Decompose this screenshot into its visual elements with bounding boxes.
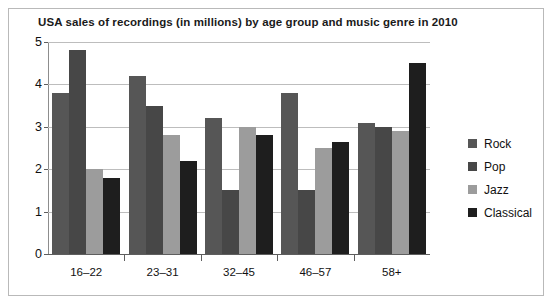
bar-group — [358, 42, 426, 254]
bar — [129, 76, 146, 254]
bar — [358, 123, 375, 254]
x-tick-label: 16–22 — [70, 266, 102, 278]
legend-item: Jazz — [468, 178, 532, 201]
bar — [315, 148, 332, 254]
legend-label: Classical — [484, 206, 532, 220]
bar — [69, 50, 86, 254]
bar — [298, 190, 315, 254]
x-tick-label: 32–45 — [223, 266, 255, 278]
bar-group — [205, 42, 273, 254]
bar — [52, 93, 69, 254]
bar — [281, 93, 298, 254]
bar — [163, 135, 180, 254]
x-tick-mark — [124, 254, 125, 261]
bar — [86, 169, 103, 254]
bar-group — [52, 42, 120, 254]
legend: RockPopJazzClassical — [468, 132, 532, 224]
chart-screenshot: USA sales of recordings (in millions) by… — [0, 0, 553, 305]
bar — [392, 131, 409, 254]
bar — [409, 63, 426, 254]
bar-group — [281, 42, 349, 254]
bar — [239, 127, 256, 254]
x-tick-mark — [354, 254, 355, 261]
legend-item: Classical — [468, 201, 532, 224]
legend-item: Rock — [468, 132, 532, 155]
x-tick-label: 58+ — [382, 266, 402, 278]
x-tick-label: 23–31 — [147, 266, 179, 278]
bar — [103, 178, 120, 254]
y-tick-label: 2 — [35, 162, 42, 176]
bar — [256, 135, 273, 254]
bar — [180, 161, 197, 254]
y-tick-label: 1 — [35, 205, 42, 219]
legend-label: Rock — [484, 137, 511, 151]
chart-title: USA sales of recordings (in millions) by… — [38, 16, 458, 28]
bar — [222, 190, 239, 254]
legend-swatch-classical — [468, 208, 477, 217]
plot-area — [48, 42, 430, 254]
y-tick-label: 4 — [35, 77, 42, 91]
legend-swatch-rock — [468, 139, 477, 148]
legend-item: Pop — [468, 155, 532, 178]
legend-swatch-jazz — [468, 185, 477, 194]
x-tick-label: 46–57 — [299, 266, 331, 278]
y-tick-label: 5 — [35, 35, 42, 49]
y-tick-label: 0 — [35, 247, 42, 261]
legend-label: Jazz — [484, 183, 509, 197]
legend-label: Pop — [484, 160, 505, 174]
bar — [375, 127, 392, 254]
bar — [205, 118, 222, 254]
bar — [146, 106, 163, 254]
x-tick-mark — [277, 254, 278, 261]
x-axis-line — [48, 254, 430, 255]
legend-swatch-pop — [468, 162, 477, 171]
bar — [332, 142, 349, 254]
x-tick-mark — [201, 254, 202, 261]
y-tick-label: 3 — [35, 120, 42, 134]
bar-group — [129, 42, 197, 254]
